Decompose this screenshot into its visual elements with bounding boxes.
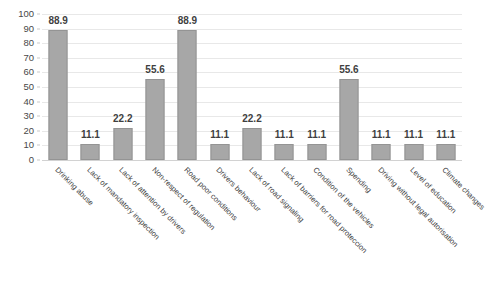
bar[interactable]	[404, 144, 423, 160]
x-tick-label: Spending	[344, 166, 372, 194]
y-tick-mark-10	[37, 145, 40, 146]
bar-slot: 11.1	[300, 14, 332, 160]
bar-value-label: 55.6	[339, 65, 358, 75]
bar[interactable]	[242, 128, 261, 160]
bar[interactable]	[113, 128, 132, 160]
y-tick-label-40: 40	[23, 97, 34, 107]
bar-value-label: 11.1	[275, 130, 294, 140]
y-tick-label-100: 100	[18, 9, 34, 19]
x-tick-label: Condition of the vehicles	[312, 166, 376, 230]
bar[interactable]	[81, 144, 100, 160]
y-tick-mark-0	[37, 160, 40, 161]
bar-slot: 11.1	[397, 14, 429, 160]
bar-slot: 22.2	[236, 14, 268, 160]
x-axis-labels: Drinking abuseLack of mandatory inspecti…	[42, 160, 462, 292]
bar-slot: 11.1	[74, 14, 106, 160]
bars-layer: 88.911.122.255.688.911.122.211.111.155.6…	[42, 14, 462, 160]
bar[interactable]	[307, 144, 326, 160]
bar-slot: 55.6	[333, 14, 365, 160]
y-tick-label-0: 0	[29, 155, 34, 165]
y-tick-mark-70	[37, 57, 40, 58]
bar[interactable]	[146, 79, 165, 160]
bar-value-label: 22.2	[242, 114, 261, 124]
y-tick-label-50: 50	[23, 82, 34, 92]
y-tick-label-30: 30	[23, 111, 34, 121]
y-tick-mark-100	[37, 14, 40, 15]
bar[interactable]	[210, 144, 229, 160]
y-axis: 0102030405060708090100	[0, 14, 40, 160]
bar-value-label: 11.1	[436, 130, 455, 140]
bar-value-label: 11.1	[81, 130, 100, 140]
bar-slot: 11.1	[268, 14, 300, 160]
bar-value-label: 11.1	[404, 130, 423, 140]
x-tick-label: Non-respect of regulation	[150, 166, 216, 232]
bar-value-label: 88.9	[178, 16, 197, 26]
y-tick-mark-80	[37, 43, 40, 44]
x-tick-label: Lack of road signaling	[247, 166, 305, 224]
bar-value-label: 88.9	[48, 16, 67, 26]
y-tick-mark-60	[37, 72, 40, 73]
y-tick-label-20: 20	[23, 126, 34, 136]
y-tick-mark-40	[37, 101, 40, 102]
y-tick-label-60: 60	[23, 68, 34, 78]
bar-slot: 88.9	[42, 14, 74, 160]
y-tick-label-80: 80	[23, 38, 34, 48]
y-tick-mark-90	[37, 28, 40, 29]
bar-value-label: 11.1	[210, 130, 229, 140]
bar-value-label: 22.2	[113, 114, 132, 124]
bar-slot: 88.9	[171, 14, 203, 160]
bar[interactable]	[339, 79, 358, 160]
y-tick-label-10: 10	[23, 141, 34, 151]
y-tick-label-90: 90	[23, 24, 34, 34]
bar[interactable]	[275, 144, 294, 160]
bar-value-label: 11.1	[372, 130, 391, 140]
bar[interactable]	[436, 144, 455, 160]
bar-slot: 11.1	[430, 14, 462, 160]
bar-slot: 55.6	[139, 14, 171, 160]
y-tick-mark-50	[37, 87, 40, 88]
y-tick-mark-30	[37, 116, 40, 117]
bar[interactable]	[49, 30, 68, 160]
bar[interactable]	[178, 30, 197, 160]
y-tick-mark-20	[37, 130, 40, 131]
bar-value-label: 55.6	[145, 65, 164, 75]
bar-slot: 11.1	[365, 14, 397, 160]
bar-slot: 11.1	[204, 14, 236, 160]
bar-slot: 22.2	[107, 14, 139, 160]
y-tick-label-70: 70	[23, 53, 34, 63]
bar[interactable]	[372, 144, 391, 160]
bar-value-label: 11.1	[307, 130, 326, 140]
